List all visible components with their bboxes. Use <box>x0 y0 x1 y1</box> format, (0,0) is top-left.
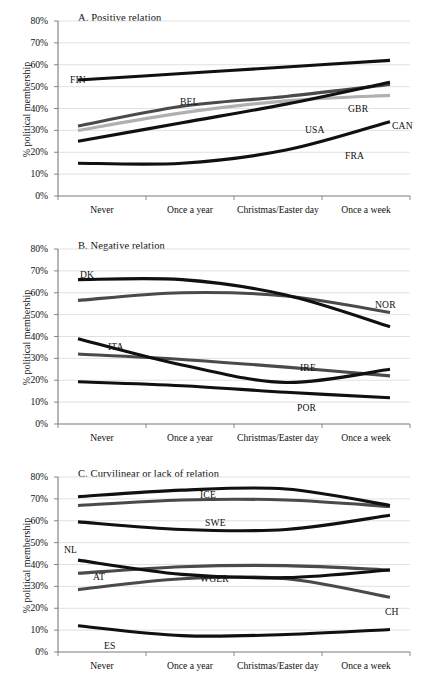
series-label-fra: FRA <box>345 150 364 161</box>
series-label-ita: ITA <box>108 341 124 352</box>
series-label-at: AT <box>93 571 105 582</box>
series-label-es: ES <box>104 640 116 651</box>
series-line-fin <box>78 60 390 80</box>
series-label-gbr: GBR <box>348 103 368 114</box>
y-axis-tick-label-50pct: 50% <box>14 538 48 548</box>
panel-a-chart <box>0 0 425 228</box>
y-axis-tick-label-80pct: 80% <box>14 472 48 482</box>
y-axis-tick-label-10pct: 10% <box>14 625 48 635</box>
panel-b-chart <box>0 228 425 456</box>
series-label-nl: NL <box>64 544 77 555</box>
series-line-por <box>78 382 390 398</box>
y-axis-tick-label-20pct: 20% <box>14 375 48 385</box>
series-label-ch: CH <box>385 606 399 617</box>
series-label-wger: WGER <box>200 573 229 584</box>
plot-area-c: C. Curvilinear or lack of relation % pol… <box>0 456 425 684</box>
series-line-ire <box>78 354 390 376</box>
series-label-por: POR <box>297 402 316 413</box>
y-axis-tick-label-50pct: 50% <box>14 310 48 320</box>
plot-area-a: A. Positive relation % political members… <box>0 0 425 228</box>
y-axis-tick-label-70pct: 70% <box>14 494 48 504</box>
y-axis-tick-label-30pct: 30% <box>14 353 48 363</box>
series-line-swe <box>78 499 390 506</box>
y-axis-tick-label-60pct: 60% <box>14 60 48 70</box>
series-label-swe: SWE <box>205 517 226 528</box>
x-axis-tick-label-once-a-week: Once a week <box>306 660 425 671</box>
y-axis-tick-label-60pct: 60% <box>14 288 48 298</box>
panel-b-negative-relation: B. Negative relation % political members… <box>0 228 425 456</box>
y-axis-tick-label-70pct: 70% <box>14 38 48 48</box>
series-line-ita <box>78 339 390 383</box>
y-axis-tick-label-40pct: 40% <box>14 104 48 114</box>
plot-area-b: B. Negative relation % political members… <box>0 228 425 456</box>
y-axis-tick-label-10pct: 10% <box>14 169 48 179</box>
y-axis-tick-label-20pct: 20% <box>14 603 48 613</box>
y-axis-tick-label-0pct: 0% <box>14 419 48 429</box>
y-axis-tick-label-0pct: 0% <box>14 191 48 201</box>
y-axis-tick-label-20pct: 20% <box>14 147 48 157</box>
y-axis-tick-label-40pct: 40% <box>14 560 48 570</box>
y-axis-tick-label-70pct: 70% <box>14 266 48 276</box>
x-axis-tick-label-once-a-week: Once a week <box>306 204 425 215</box>
figure-page: A. Positive relation % political members… <box>0 0 425 685</box>
y-axis-tick-label-0pct: 0% <box>14 647 48 657</box>
series-label-dk: DK <box>80 269 94 280</box>
series-label-can: CAN <box>392 120 413 131</box>
y-axis-tick-label-30pct: 30% <box>14 125 48 135</box>
panel-a-positive-relation: A. Positive relation % political members… <box>0 0 425 228</box>
series-line-nor <box>78 292 390 312</box>
x-axis-tick-label-once-a-week: Once a week <box>306 432 425 443</box>
series-label-bel: BEL <box>180 96 199 107</box>
series-label-usa: USA <box>305 124 325 135</box>
series-line-fra <box>78 122 390 165</box>
y-axis-tick-label-80pct: 80% <box>14 244 48 254</box>
y-axis-tick-label-50pct: 50% <box>14 82 48 92</box>
series-label-nor: NOR <box>375 299 396 310</box>
series-line-es <box>78 626 390 636</box>
series-line-ch <box>78 577 390 597</box>
y-axis-tick-label-80pct: 80% <box>14 16 48 26</box>
panel-c-curvilinear-relation: C. Curvilinear or lack of relation % pol… <box>0 456 425 684</box>
y-axis-tick-label-60pct: 60% <box>14 516 48 526</box>
series-label-fin: FIN <box>70 74 86 85</box>
series-line-nl <box>78 515 390 531</box>
y-axis-tick-label-40pct: 40% <box>14 332 48 342</box>
series-label-ire: IRE <box>300 362 316 373</box>
series-label-ice: ICE <box>200 489 216 500</box>
series-line-dk <box>78 278 390 326</box>
series-line-usa <box>78 82 390 141</box>
y-axis-tick-label-30pct: 30% <box>14 581 48 591</box>
y-axis-tick-label-10pct: 10% <box>14 397 48 407</box>
